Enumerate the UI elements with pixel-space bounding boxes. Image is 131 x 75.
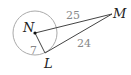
length-lm: 24	[77, 37, 91, 50]
diagram-canvas: N L M 25 24 7	[0, 0, 131, 75]
length-nl: 7	[30, 44, 37, 57]
geometry-diagram: N L M 25 24 7	[0, 0, 131, 75]
label-n: N	[22, 20, 35, 35]
label-l: L	[43, 56, 53, 71]
length-nm: 25	[66, 9, 80, 22]
label-m: M	[112, 6, 127, 21]
